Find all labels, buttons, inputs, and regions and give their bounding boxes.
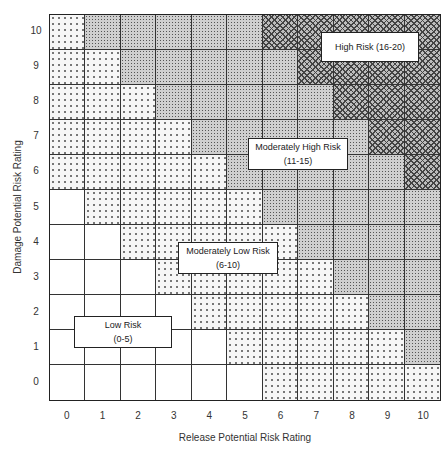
- matrix-cell: [156, 15, 191, 50]
- y-tick-label: 9: [26, 60, 46, 71]
- y-tick-label: 6: [26, 165, 46, 176]
- matrix-cell: [227, 190, 262, 225]
- matrix-cell: [334, 260, 369, 295]
- y-tick-label: 3: [26, 271, 46, 282]
- low-risk-title: Low Risk: [75, 318, 171, 332]
- y-tick-label: 0: [26, 376, 46, 387]
- matrix-cell: [192, 365, 227, 400]
- matrix-cell: [263, 50, 298, 85]
- matrix-cell: [369, 260, 404, 295]
- matrix-cell: [263, 365, 298, 400]
- matrix-cell: [405, 295, 440, 330]
- matrix-cell: [263, 330, 298, 365]
- matrix-cell: [334, 295, 369, 330]
- matrix-cell: [227, 365, 262, 400]
- matrix-cell: [156, 365, 191, 400]
- y-tick-label: 5: [26, 201, 46, 212]
- matrix-cell: [121, 15, 156, 50]
- matrix-cell: [85, 225, 120, 260]
- matrix-cell: [369, 330, 404, 365]
- matrix-cell: [334, 225, 369, 260]
- x-tick-label: 8: [342, 410, 362, 421]
- matrix-cell: [121, 225, 156, 260]
- matrix-cell: [192, 295, 227, 330]
- matrix-cell: [405, 120, 440, 155]
- matrix-cell: [369, 365, 404, 400]
- matrix-cell: [298, 190, 333, 225]
- matrix-cell: [121, 50, 156, 85]
- high-risk-label: High Risk (16-20): [321, 32, 419, 62]
- matrix-cell: [334, 85, 369, 120]
- matrix-cell: [298, 260, 333, 295]
- matrix-cell: [50, 85, 85, 120]
- matrix-cell: [121, 85, 156, 120]
- y-tick-label: 4: [26, 236, 46, 247]
- matrix-cell: [227, 85, 262, 120]
- matrix-cell: [263, 85, 298, 120]
- x-tick-label: 4: [199, 410, 219, 421]
- x-tick-label: 2: [128, 410, 148, 421]
- matrix-cell: [263, 295, 298, 330]
- matrix-cell: [85, 155, 120, 190]
- matrix-cell: [50, 120, 85, 155]
- matrix-cell: [405, 85, 440, 120]
- y-tick-label: 1: [26, 341, 46, 352]
- matrix-cell: [85, 15, 120, 50]
- matrix-cell: [50, 190, 85, 225]
- matrix-cell: [227, 50, 262, 85]
- y-tick-label: 2: [26, 306, 46, 317]
- matrix-cell: [369, 120, 404, 155]
- matrix-cell: [192, 85, 227, 120]
- matrix-cell: [334, 365, 369, 400]
- matrix-cell: [192, 50, 227, 85]
- low-risk-label: Low Risk (0-5): [74, 316, 172, 348]
- matrix-cell: [334, 190, 369, 225]
- matrix-cell: [50, 155, 85, 190]
- matrix-cell: [121, 365, 156, 400]
- matrix-cell: [405, 330, 440, 365]
- matrix-cell: [369, 190, 404, 225]
- matrix-cell: [192, 15, 227, 50]
- matrix-cell: [156, 85, 191, 120]
- x-tick-label: 6: [271, 410, 291, 421]
- matrix-cell: [121, 260, 156, 295]
- moderately-low-risk-range: (6-10): [179, 258, 277, 272]
- matrix-cell: [192, 190, 227, 225]
- matrix-cell: [405, 225, 440, 260]
- matrix-cell: [50, 225, 85, 260]
- matrix-cell: [156, 120, 191, 155]
- matrix-cell: [227, 15, 262, 50]
- y-axis-title: Damage Potential Risk Rating: [12, 140, 23, 273]
- low-risk-range: (0-5): [75, 332, 171, 346]
- y-tick-label: 7: [26, 130, 46, 141]
- matrix-cell: [298, 365, 333, 400]
- x-tick-label: 3: [164, 410, 184, 421]
- matrix-cell: [227, 295, 262, 330]
- matrix-cell: [156, 155, 191, 190]
- matrix-cell: [298, 225, 333, 260]
- matrix-cell: [263, 190, 298, 225]
- matrix-cell: [405, 190, 440, 225]
- matrix-cell: [85, 190, 120, 225]
- matrix-cell: [121, 120, 156, 155]
- moderately-high-risk-title: Moderately High Risk: [249, 140, 347, 154]
- matrix-cell: [85, 365, 120, 400]
- matrix-cell: [192, 330, 227, 365]
- matrix-cell: [298, 85, 333, 120]
- matrix-cell: [192, 155, 227, 190]
- matrix-cell: [50, 365, 85, 400]
- high-risk-title: High Risk (16-20): [322, 40, 418, 54]
- x-tick-label: 9: [378, 410, 398, 421]
- matrix-cell: [369, 85, 404, 120]
- moderately-low-risk-title: Moderately Low Risk: [179, 244, 277, 258]
- matrix-cell: [50, 260, 85, 295]
- y-tick-label: 10: [26, 25, 46, 36]
- x-tick-label: 7: [306, 410, 326, 421]
- matrix-cell: [405, 260, 440, 295]
- matrix-cell: [298, 330, 333, 365]
- matrix-cell: [263, 15, 298, 50]
- matrix-cell: [369, 295, 404, 330]
- matrix-cell: [405, 155, 440, 190]
- y-tick-label: 8: [26, 95, 46, 106]
- matrix-cell: [369, 155, 404, 190]
